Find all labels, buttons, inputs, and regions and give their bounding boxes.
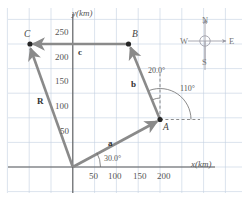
angle-110-label: 110°: [180, 85, 195, 93]
point-C-dot: [27, 41, 32, 46]
y-tick-50: 50: [60, 127, 69, 136]
compass-south-label: S: [202, 58, 207, 67]
vector-R-label: R: [37, 97, 44, 106]
vector-diagram-figure: y(km) x(km) 250 200 150 100 50 50 100 15…: [0, 0, 250, 205]
y-tick-150: 150: [55, 77, 69, 86]
x-tick-100: 100: [108, 172, 122, 181]
angle-20-label: 20.0°: [148, 67, 165, 75]
x-tick-50: 50: [89, 172, 98, 181]
point-B-dot: [126, 41, 131, 46]
vector-c-label: c: [78, 48, 82, 57]
point-B-label: B: [132, 30, 138, 40]
point-C-label: C: [24, 30, 30, 40]
compass-north-label: N: [202, 16, 208, 25]
x-tick-150: 150: [133, 172, 147, 181]
angle-30-label: 30.0°: [104, 155, 121, 163]
y-axis-label: y(km): [72, 9, 92, 18]
vector-a-label: a: [108, 139, 113, 148]
x-axis-label: x(km): [191, 160, 211, 169]
compass-west-label: W: [180, 37, 188, 46]
vector-b-label: b: [131, 80, 136, 89]
point-A-dot: [157, 117, 162, 122]
x-tick-200: 200: [157, 172, 171, 181]
point-A-label: A: [163, 123, 169, 133]
y-tick-200: 200: [55, 53, 69, 62]
y-tick-250: 250: [55, 28, 69, 37]
compass-east-label: E: [229, 37, 234, 46]
y-tick-100: 100: [55, 102, 69, 111]
